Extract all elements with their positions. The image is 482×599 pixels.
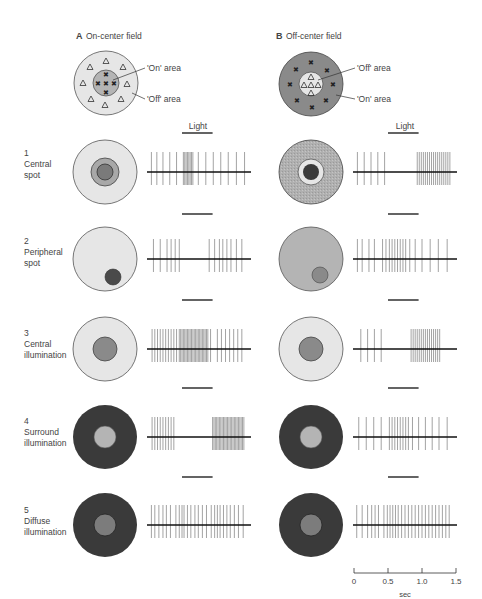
spike-train-b-4 (353, 417, 457, 450)
a-central-illumination-field (73, 317, 137, 381)
off-center-field-diagram: ✖✖✖✖✖✖✖✖ 'Off' area 'On' area (279, 52, 391, 116)
panel-a-letter: A (76, 31, 83, 41)
svg-text:1: 1 (24, 148, 29, 158)
spike-train-a-2 (147, 239, 251, 272)
off-area-label-b: 'Off' area (357, 63, 391, 73)
condition-3-label: 3 Central illumination (24, 328, 67, 360)
off-area-label: 'Off' area (147, 94, 181, 104)
svg-text:✖: ✖ (95, 80, 101, 88)
a-diffuse-illumination-field (73, 493, 137, 557)
a-surround-illumination-field (73, 405, 137, 469)
time-scale-axis: 00.51.01.5 sec (352, 568, 462, 599)
svg-text:4: 4 (24, 416, 29, 426)
svg-text:5: 5 (24, 505, 29, 515)
b-surround-illumination-field (279, 405, 343, 469)
panel-a-header: A On-center field (76, 31, 142, 41)
svg-text:Surround: Surround (24, 427, 59, 437)
time-tick-label: 0 (352, 577, 357, 586)
svg-text:illumination: illumination (24, 350, 67, 360)
svg-text:✖: ✖ (287, 81, 293, 89)
time-tick-label: 0.5 (382, 577, 394, 586)
light-label-b: Light (396, 121, 415, 131)
condition-4-label: 4 Surround illumination (24, 416, 67, 448)
light-label-a: Light (189, 121, 208, 131)
svg-text:Central: Central (24, 159, 52, 169)
svg-text:✖: ✖ (103, 71, 109, 79)
svg-text:✖: ✖ (308, 59, 314, 67)
svg-text:2: 2 (24, 236, 29, 246)
b-central-spot-field (279, 140, 343, 204)
panel-b-header: B Off-center field (276, 31, 342, 41)
svg-text:✖: ✖ (111, 80, 117, 88)
svg-text:✖: ✖ (294, 97, 300, 105)
panel-a-title: On-center field (86, 31, 142, 41)
svg-text:Peripheral: Peripheral (24, 247, 63, 257)
spike-train-a-4 (147, 417, 251, 450)
svg-text:✖: ✖ (324, 67, 330, 75)
time-tick-label: 1.5 (450, 577, 462, 586)
svg-text:✖: ✖ (323, 97, 329, 105)
a-central-spot-field (73, 140, 137, 204)
svg-text:spot: spot (24, 170, 41, 180)
svg-text:✖: ✖ (103, 80, 109, 88)
a-peripheral-spot-field (73, 227, 137, 291)
svg-text:3: 3 (24, 328, 29, 338)
condition-1-label: 1 Central spot (24, 148, 52, 180)
svg-text:Central: Central (24, 339, 52, 349)
spike-train-b-3 (353, 329, 457, 362)
condition-2-label: 2 Peripheral spot (24, 236, 63, 268)
svg-text:✖: ✖ (103, 89, 109, 97)
b-central-illumination-field (279, 317, 343, 381)
spike-train-a-5 (147, 505, 251, 538)
time-axis-label: sec (399, 590, 411, 599)
svg-text:spot: spot (24, 258, 41, 268)
panel-b-letter: B (276, 31, 283, 41)
svg-text:✖: ✖ (309, 104, 315, 112)
time-tick-label: 1.0 (416, 577, 428, 586)
spike-train-b-2 (353, 239, 457, 272)
svg-text:illumination: illumination (24, 438, 67, 448)
spike-train-a-3 (147, 329, 251, 362)
spike-train-b-1 (353, 152, 457, 185)
svg-text:✖: ✖ (330, 81, 336, 89)
panel-b-title: Off-center field (286, 31, 342, 41)
svg-text:illumination: illumination (24, 527, 67, 537)
receptive-field-figure: A On-center field ✖✖✖✖✖ 'On' area 'Off' … (0, 0, 482, 599)
spike-train-b-5 (353, 505, 457, 538)
condition-5-label: 5 Diffuse illumination (24, 505, 67, 537)
svg-text:Diffuse: Diffuse (24, 516, 51, 526)
b-diffuse-illumination-field (279, 493, 343, 557)
svg-text:✖: ✖ (293, 66, 299, 74)
b-peripheral-spot-field (279, 227, 343, 291)
on-area-label-b: 'On' area (357, 94, 391, 104)
on-center-field-diagram: ✖✖✖✖✖ 'On' area 'Off' area (74, 51, 181, 115)
spike-train-a-1 (147, 152, 251, 185)
on-area-label: 'On' area (147, 63, 181, 73)
